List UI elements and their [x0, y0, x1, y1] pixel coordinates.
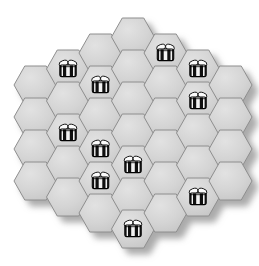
bee-icon: [91, 75, 110, 92]
bee-icon: [123, 155, 142, 172]
bee-icon: [58, 123, 77, 140]
bee-icon: [188, 59, 207, 76]
bee-icon: [156, 43, 175, 60]
bee-icon: [188, 91, 207, 108]
hex-grid-svg[interactable]: [0, 0, 259, 266]
hex-cells-layer[interactable]: [14, 18, 252, 248]
bee-icon: [58, 59, 77, 76]
bee-icon: [91, 139, 110, 156]
bee-icon: [188, 187, 207, 204]
bee-icon: [123, 219, 142, 236]
bee-icon: [91, 171, 110, 188]
honeycomb-board-root: [0, 0, 259, 266]
